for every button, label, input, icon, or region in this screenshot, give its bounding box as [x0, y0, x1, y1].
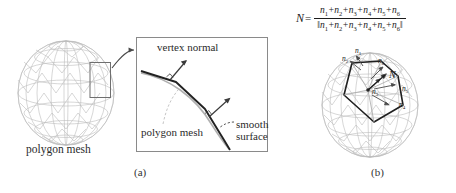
label-n1: n1: [355, 46, 362, 56]
label-n6: n6: [378, 56, 385, 66]
label-n5: n5: [402, 84, 409, 94]
label-n4: n4: [399, 100, 406, 110]
label-n2: n2: [342, 54, 349, 64]
normal-arrow-n5: [374, 83, 395, 89]
normal-arrow-n4: [372, 95, 389, 105]
label-N: N: [388, 69, 397, 80]
panel-b-sphere-svg: n1 n2 n3 n4 n5 n6 N: [0, 0, 456, 193]
panel-b-caption: (b): [371, 167, 384, 179]
figure-root: polygon mesh vertex normal polygon mesh …: [0, 0, 456, 193]
